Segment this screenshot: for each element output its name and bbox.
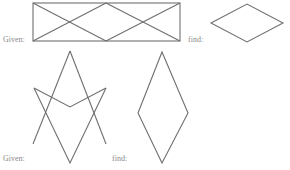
given-bottom-lower-chevron	[34, 88, 106, 163]
find-top-label: find:	[188, 36, 203, 44]
find-top-rhombus	[211, 4, 283, 42]
given-bottom-label: Given:	[3, 155, 25, 163]
find-bottom-rhombus	[138, 52, 188, 163]
given-top-rectangle	[33, 3, 180, 41]
diagram-canvas	[0, 0, 290, 170]
given-bottom-figure	[33, 51, 106, 163]
given-top-figure	[33, 3, 180, 41]
given-top-label: Given:	[3, 36, 25, 44]
find-bottom-label: find:	[112, 155, 127, 163]
given-bottom-middle-chevron	[34, 88, 106, 107]
